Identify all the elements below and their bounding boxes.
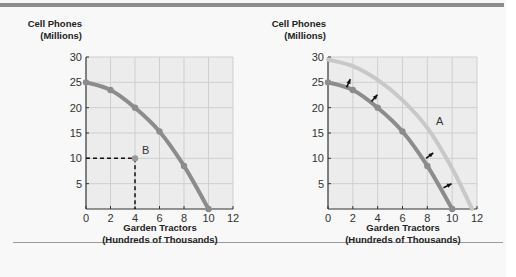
y-tick-label: 5 [318, 178, 324, 190]
x-tick-label: 2 [107, 212, 113, 224]
data-point [107, 87, 113, 93]
data-point [374, 104, 380, 110]
y-tick-label: 20 [312, 102, 324, 114]
y-tick-label: 10 [70, 152, 82, 164]
x-tick-label: 0 [325, 212, 331, 224]
data-point [181, 163, 187, 169]
x-tick-label: 6 [156, 212, 162, 224]
data-point [449, 206, 455, 212]
y-tick-label: 15 [312, 127, 324, 139]
x-tick-label: 0 [83, 212, 89, 224]
x-tick-label: 10 [202, 212, 214, 224]
data-point [83, 79, 89, 85]
curve-a-label: A [436, 115, 444, 127]
x-tick-label: 6 [399, 212, 405, 224]
x-tick-label: 12 [471, 212, 483, 224]
y-tick-label: 20 [70, 102, 82, 114]
data-point [424, 163, 430, 169]
data-point [325, 79, 331, 85]
x-tick-label: 8 [181, 212, 187, 224]
data-point [156, 128, 162, 134]
point-b [132, 155, 138, 161]
data-point [399, 128, 405, 134]
y-tick-label: 25 [312, 76, 324, 88]
data-point [350, 87, 356, 93]
x-tick-label: 8 [424, 212, 430, 224]
y-tick-label: 25 [70, 76, 82, 88]
y-tick-label: 30 [70, 51, 82, 63]
x-tick-label: 4 [375, 212, 381, 224]
y-tick-label: 15 [70, 127, 82, 139]
data-point [132, 104, 138, 110]
y-tick-label: 5 [76, 178, 82, 190]
charts-svg: 02468101251015202530B0246810125101520253… [0, 0, 516, 277]
x-tick-label: 2 [350, 212, 356, 224]
y-tick-label: 10 [312, 152, 324, 164]
x-tick-label: 10 [446, 212, 458, 224]
x-tick-label: 12 [227, 212, 239, 224]
point-b-label: B [142, 144, 149, 156]
x-tick-label: 4 [132, 212, 138, 224]
y-tick-label: 30 [312, 51, 324, 63]
data-point [205, 206, 211, 212]
